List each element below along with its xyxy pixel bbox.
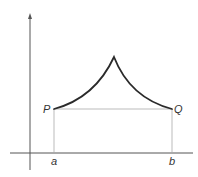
label-a: a	[51, 155, 57, 167]
label-q: Q	[174, 103, 183, 115]
label-b: b	[169, 155, 175, 167]
cusp-curve	[54, 57, 172, 109]
diagram-canvas: P Q a b	[0, 0, 198, 177]
y-axis-arrow-icon	[28, 13, 32, 19]
label-p: P	[43, 103, 51, 115]
